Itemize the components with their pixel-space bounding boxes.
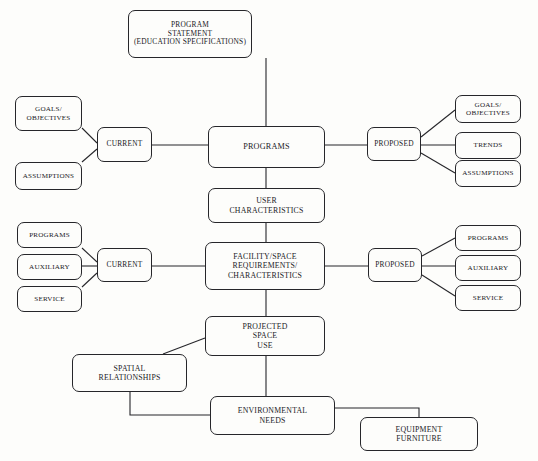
node-environmental-needs[interactable]: ENVIRONMENTAL NEEDS bbox=[210, 396, 335, 435]
node-equipment-furniture[interactable]: EQUIPMENT FURNITURE bbox=[360, 417, 478, 451]
node-auxiliary-proposed[interactable]: AUXILIARY bbox=[455, 255, 521, 281]
edge-projected-space-use-to-spatial-relationships bbox=[163, 338, 205, 354]
edge-proposed-facility-to-programs bbox=[422, 238, 455, 256]
node-label-projected-space-use: PROJECTED SPACE USE bbox=[240, 322, 289, 350]
node-proposed-facility[interactable]: PROPOSED bbox=[368, 248, 422, 282]
node-spatial-relationships[interactable]: SPATIAL RELATIONSHIPS bbox=[72, 354, 187, 392]
flow-diagram: PROGRAM STATEMENT (EDUCATION SPECIFICATI… bbox=[0, 0, 538, 461]
node-service-proposed[interactable]: SERVICE bbox=[455, 285, 521, 311]
node-facility-space-requirements[interactable]: FACILITY/SPACE REQUIREMENTS/ CHARACTERIS… bbox=[205, 242, 325, 290]
edge-service-to-current-facility bbox=[82, 273, 97, 287]
node-label-equipment-furniture: EQUIPMENT FURNITURE bbox=[394, 425, 445, 443]
node-programs-current-facility[interactable]: PROGRAMS bbox=[17, 222, 82, 248]
node-assumptions-current[interactable]: ASSUMPTIONS bbox=[15, 162, 82, 190]
node-label-programs: PROGRAMS bbox=[241, 142, 292, 152]
edge-assumptions-to-current bbox=[82, 149, 97, 162]
node-current-programs[interactable]: CURRENT bbox=[97, 127, 152, 162]
edge-proposed-to-goals-objectives bbox=[421, 110, 455, 137]
node-trends-proposed[interactable]: TRENDS bbox=[455, 132, 521, 159]
node-user-characteristics[interactable]: USER CHARACTERISTICS bbox=[208, 188, 325, 223]
edge-programs-current-to-current-facility bbox=[82, 248, 97, 262]
node-auxiliary-current[interactable]: AUXILIARY bbox=[17, 254, 82, 280]
node-label-facility-space-requirements: FACILITY/SPACE REQUIREMENTS/ CHARACTERIS… bbox=[226, 252, 304, 280]
node-goals-objectives-proposed[interactable]: GOALS/ OBJECTIVES bbox=[455, 95, 521, 123]
node-label-auxiliary-current: AUXILIARY bbox=[27, 263, 72, 271]
node-label-spatial-relationships: SPATIAL RELATIONSHIPS bbox=[97, 364, 163, 382]
node-label-goals-objectives-proposed: GOALS/ OBJECTIVES bbox=[464, 101, 512, 118]
node-projected-space-use[interactable]: PROJECTED SPACE USE bbox=[205, 316, 325, 356]
edge-spatial-relationships-to-environmental-needs bbox=[130, 392, 210, 415]
node-programs[interactable]: PROGRAMS bbox=[208, 126, 325, 168]
edge-proposed-to-assumptions bbox=[421, 153, 455, 173]
node-label-environmental-needs: ENVIRONMENTAL NEEDS bbox=[236, 406, 310, 424]
node-service-current[interactable]: SERVICE bbox=[17, 286, 82, 312]
node-assumptions-proposed[interactable]: ASSUMPTIONS bbox=[455, 160, 521, 187]
edge-environmental-needs-to-equipment-furniture bbox=[335, 408, 419, 417]
node-proposed-programs[interactable]: PROPOSED bbox=[367, 127, 421, 161]
node-label-current-programs: CURRENT bbox=[105, 140, 145, 149]
edge-proposed-facility-to-service bbox=[422, 275, 455, 296]
node-label-programs-proposed-facility: PROGRAMS bbox=[466, 234, 511, 242]
node-label-assumptions-proposed: ASSUMPTIONS bbox=[460, 169, 515, 177]
node-label-service-current: SERVICE bbox=[32, 295, 66, 303]
node-current-facility[interactable]: CURRENT bbox=[97, 248, 152, 282]
node-label-user-characteristics: USER CHARACTERISTICS bbox=[227, 196, 305, 214]
node-label-program-statement: PROGRAM STATEMENT (EDUCATION SPECIFICATI… bbox=[132, 21, 248, 47]
node-label-proposed-programs: PROPOSED bbox=[372, 140, 415, 149]
node-label-service-proposed: SERVICE bbox=[471, 294, 505, 302]
node-label-trends-proposed: TRENDS bbox=[472, 141, 505, 149]
node-label-current-facility: CURRENT bbox=[105, 261, 145, 270]
node-label-auxiliary-proposed: AUXILIARY bbox=[466, 264, 511, 272]
node-programs-proposed-facility[interactable]: PROGRAMS bbox=[455, 225, 521, 251]
edge-goals-objectives-to-current bbox=[82, 128, 97, 143]
node-program-statement[interactable]: PROGRAM STATEMENT (EDUCATION SPECIFICATI… bbox=[128, 10, 252, 58]
node-label-assumptions-current: ASSUMPTIONS bbox=[21, 172, 76, 180]
node-label-programs-current-facility: PROGRAMS bbox=[27, 231, 72, 239]
node-label-goals-objectives-current: GOALS/ OBJECTIVES bbox=[25, 105, 73, 122]
node-goals-objectives-current[interactable]: GOALS/ OBJECTIVES bbox=[15, 96, 82, 131]
node-label-proposed-facility: PROPOSED bbox=[373, 261, 416, 270]
